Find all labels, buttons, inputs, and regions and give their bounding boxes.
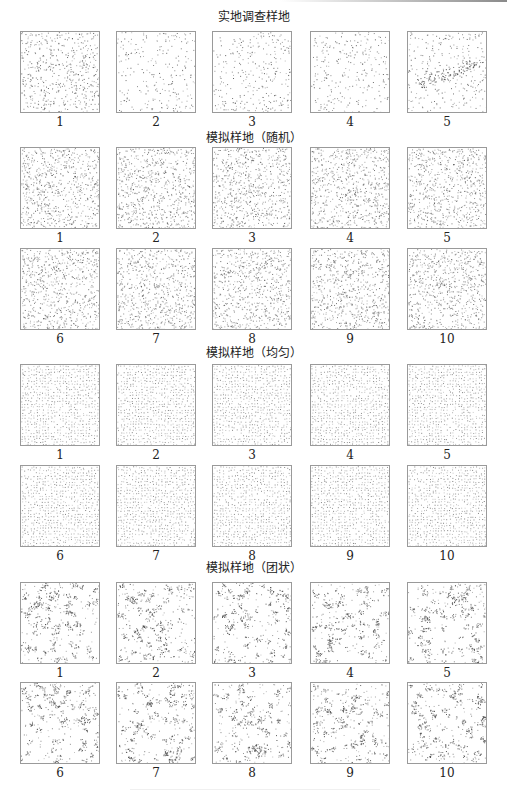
- plot-uniform-5: [407, 364, 487, 446]
- plot-random-5: [407, 147, 487, 229]
- point-pattern: [117, 148, 195, 228]
- point-pattern: [408, 249, 486, 329]
- point-pattern: [21, 365, 99, 445]
- point-pattern: [117, 32, 195, 112]
- plot-clustered-3: [212, 582, 292, 664]
- plot-label: 2: [116, 115, 196, 129]
- plot-label: 3: [212, 115, 292, 129]
- plot-field-5: [407, 31, 487, 113]
- section-title-clustered: 模拟样地（团状）: [0, 561, 507, 575]
- point-pattern: [21, 148, 99, 228]
- plot-uniform-2: [116, 364, 196, 446]
- plot-label: 3: [212, 231, 292, 245]
- plot-field-1: [20, 31, 100, 113]
- point-pattern: [117, 583, 195, 663]
- top-edge-bar: [280, 0, 507, 2]
- plot-label: 1: [20, 666, 100, 680]
- plot-uniform-6: [20, 465, 100, 547]
- point-pattern: [21, 583, 99, 663]
- section-title-field: 实地调查样地: [0, 10, 507, 24]
- plot-clustered-9: [310, 682, 390, 764]
- plot-clustered-4: [310, 582, 390, 664]
- plot-uniform-1: [20, 364, 100, 446]
- plot-label: 7: [116, 332, 196, 346]
- plot-label: 10: [407, 549, 487, 563]
- point-pattern: [213, 365, 291, 445]
- point-pattern: [408, 148, 486, 228]
- plot-uniform-7: [116, 465, 196, 547]
- point-pattern: [21, 249, 99, 329]
- plot-label: 1: [20, 448, 100, 462]
- point-pattern: [213, 148, 291, 228]
- plot-label: 6: [20, 766, 100, 780]
- plot-label: 3: [212, 448, 292, 462]
- plot-label: 8: [212, 766, 292, 780]
- point-pattern: [311, 249, 389, 329]
- point-pattern: [408, 365, 486, 445]
- plot-label: 10: [407, 332, 487, 346]
- plot-random-7: [116, 248, 196, 330]
- point-pattern: [213, 466, 291, 546]
- plot-uniform-9: [310, 465, 390, 547]
- point-pattern: [311, 583, 389, 663]
- point-pattern: [213, 583, 291, 663]
- plot-label: 8: [212, 332, 292, 346]
- plot-label: 4: [310, 115, 390, 129]
- plot-label: 7: [116, 766, 196, 780]
- plot-label: 5: [407, 115, 487, 129]
- plot-label: 10: [407, 766, 487, 780]
- plot-clustered-8: [212, 682, 292, 764]
- plot-label: 6: [20, 332, 100, 346]
- plot-label: 9: [310, 549, 390, 563]
- plot-random-1: [20, 147, 100, 229]
- point-pattern: [213, 249, 291, 329]
- point-pattern: [21, 32, 99, 112]
- plot-label: 2: [116, 448, 196, 462]
- plot-label: 1: [20, 231, 100, 245]
- plot-label: 2: [116, 231, 196, 245]
- point-pattern: [213, 32, 291, 112]
- plot-random-9: [310, 248, 390, 330]
- plot-label: 5: [407, 666, 487, 680]
- point-pattern: [408, 583, 486, 663]
- point-pattern: [21, 466, 99, 546]
- bottom-faint-line: [130, 789, 380, 790]
- plot-random-4: [310, 147, 390, 229]
- plot-label: 7: [116, 549, 196, 563]
- plot-clustered-1: [20, 582, 100, 664]
- point-pattern: [408, 466, 486, 546]
- plot-uniform-4: [310, 364, 390, 446]
- point-pattern: [311, 365, 389, 445]
- section-title-random: 模拟样地（随机）: [0, 131, 507, 145]
- plot-uniform-3: [212, 364, 292, 446]
- point-pattern: [311, 466, 389, 546]
- plot-field-4: [310, 31, 390, 113]
- plot-label: 1: [20, 115, 100, 129]
- plot-label: 4: [310, 448, 390, 462]
- point-pattern: [311, 683, 389, 763]
- plot-label: 8: [212, 549, 292, 563]
- plot-label: 3: [212, 666, 292, 680]
- point-pattern: [213, 683, 291, 763]
- plot-label: 9: [310, 332, 390, 346]
- plot-clustered-7: [116, 682, 196, 764]
- plot-label: 5: [407, 448, 487, 462]
- point-pattern: [311, 32, 389, 112]
- point-pattern: [408, 32, 486, 112]
- plot-field-2: [116, 31, 196, 113]
- section-title-uniform: 模拟样地（均匀）: [0, 346, 507, 360]
- plot-clustered-2: [116, 582, 196, 664]
- point-pattern: [117, 466, 195, 546]
- plot-clustered-6: [20, 682, 100, 764]
- point-pattern: [117, 365, 195, 445]
- plot-label: 2: [116, 666, 196, 680]
- plot-random-2: [116, 147, 196, 229]
- plot-label: 9: [310, 766, 390, 780]
- point-pattern: [117, 683, 195, 763]
- point-pattern: [311, 148, 389, 228]
- plot-clustered-5: [407, 582, 487, 664]
- plot-label: 4: [310, 666, 390, 680]
- plot-uniform-8: [212, 465, 292, 547]
- plot-label: 6: [20, 549, 100, 563]
- point-pattern: [408, 683, 486, 763]
